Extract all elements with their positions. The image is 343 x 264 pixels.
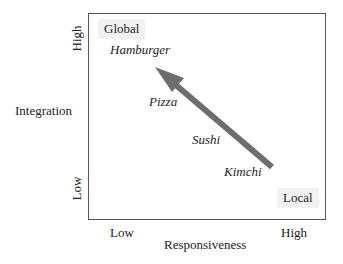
- item-pizza: Pizza: [149, 94, 177, 109]
- item-sushi: Sushi: [192, 132, 220, 147]
- y-axis-title: Integration: [15, 103, 72, 118]
- x-axis-high-label: High: [281, 225, 307, 240]
- corner-label-local: Local: [277, 188, 319, 208]
- item-hamburger: Hamburger: [110, 42, 170, 57]
- item-kimchi: Kimchi: [224, 164, 262, 179]
- x-axis-title: Responsiveness: [164, 237, 246, 252]
- y-axis-low-label: Low: [69, 176, 84, 202]
- corner-label-global: Global: [98, 19, 145, 39]
- x-axis-low-label: Low: [110, 225, 134, 240]
- y-axis-high-label: High: [69, 26, 84, 52]
